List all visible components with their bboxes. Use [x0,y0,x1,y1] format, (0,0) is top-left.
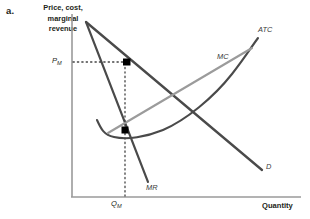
demand-curve [86,22,262,170]
price-monopoly-label: PM [52,56,62,65]
price-monopoly-subscript: M [57,60,62,66]
monopoly-diagram-figure: a. Price, cost, marginal revenue Quantit… [0,0,310,219]
mc-curve-label: MC [217,52,229,61]
marginal-revenue-curve [86,22,148,182]
quantity-monopoly-label: QM [111,199,122,208]
mr-curve-label: MR [146,183,158,192]
demand-curve-label: D [266,162,271,171]
quantity-monopoly-subscript: M [117,203,122,209]
monopoly-price-point-marker [123,59,131,66]
atc-curve-label: ATC [258,25,272,34]
mc-equals-mr-point-marker [122,127,129,134]
